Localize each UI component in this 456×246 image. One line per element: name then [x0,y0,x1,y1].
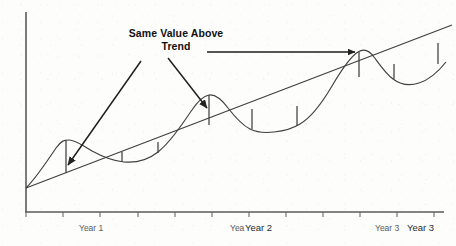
x-label-year-2: Year 2 [245,222,272,233]
x-label-year-3: Year 3 [407,222,434,233]
x-label-year-2-partial: Yea [230,223,244,233]
chart-figure: Same Value Above Trend Year 1 Yea Year 2… [0,0,456,246]
arrow-to-second-peak [168,58,207,108]
x-label-year-1: Year 1 [79,223,103,233]
x-label-year-3-partial: Year 3 [375,223,399,233]
arrow-to-first-peak [68,61,141,165]
annotation-arrows [68,52,355,165]
cycle-wave-series [26,50,446,188]
annotation-label: Same Value Above Trend [106,27,246,53]
deviation-drop-lines [66,43,438,173]
